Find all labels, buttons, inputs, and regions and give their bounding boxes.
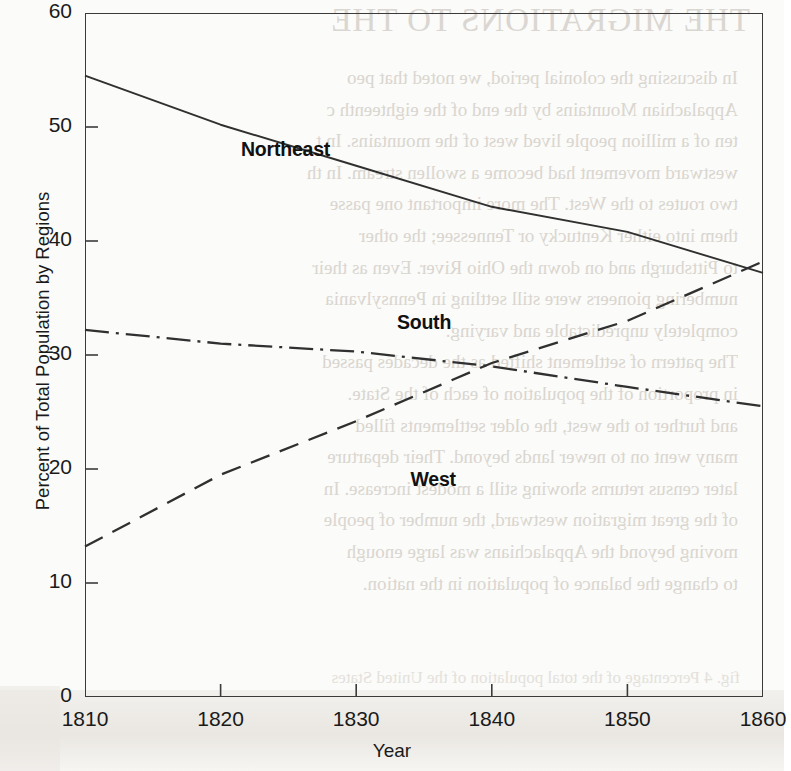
x-tick-label: 1820 (176, 707, 266, 731)
x-tick-label: 1810 (40, 707, 130, 731)
x-tick-label: 1830 (311, 707, 401, 731)
x-axis-title: Year (0, 740, 784, 762)
x-tick-label: 1860 (718, 707, 791, 731)
y-axis-title: Percent of Total Population by Regions (32, 141, 54, 561)
x-tick-label: 1850 (582, 707, 672, 731)
x-tick-label: 1840 (447, 707, 537, 731)
y-tick-label: 10 (18, 569, 72, 593)
y-tick-label: 60 (18, 0, 72, 23)
y-tick-label: 50 (18, 113, 72, 137)
series-line-northeast (85, 76, 763, 273)
series-line-west (85, 262, 763, 547)
series-label-west: West (410, 468, 455, 491)
y-tick-label: 0 (18, 683, 72, 707)
series-label-northeast: Northeast (241, 138, 330, 161)
axis-ticks (85, 127, 627, 697)
series-label-south: South (397, 311, 451, 334)
series-line-south (85, 330, 763, 406)
